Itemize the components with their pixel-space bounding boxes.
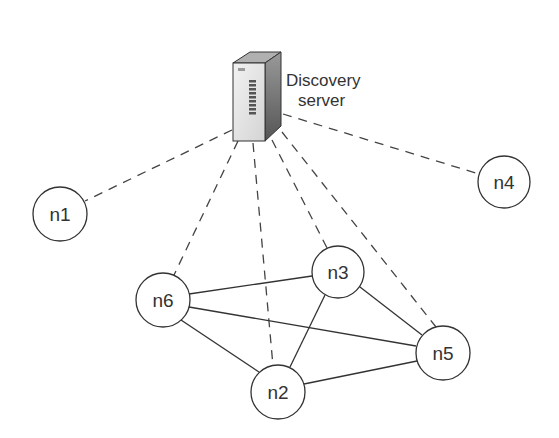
server-label-line2: server <box>298 91 346 110</box>
node-label-n5: n5 <box>432 343 453 364</box>
node-label-n1: n1 <box>49 204 70 225</box>
node-label-n6: n6 <box>152 290 173 311</box>
node-label-n3: n3 <box>327 262 348 283</box>
peer-link-n3-n5 <box>360 287 422 335</box>
discovery-link-n1 <box>85 130 232 201</box>
node-n6: n6 <box>136 273 190 327</box>
server-label-line1: Discovery <box>286 71 361 90</box>
peer-links <box>181 276 422 384</box>
discovery-link-n4 <box>283 114 479 174</box>
peer-link-n3-n2 <box>290 295 325 367</box>
node-n5: n5 <box>416 326 470 380</box>
node-label-n2: n2 <box>267 382 288 403</box>
server-icon <box>233 52 281 141</box>
discovery-link-n6 <box>174 141 238 275</box>
peer-link-n6-n3 <box>189 276 312 294</box>
discovery-links <box>85 114 479 366</box>
peer-link-n6-n2 <box>181 320 259 372</box>
node-n1: n1 <box>33 187 87 241</box>
node-label-n4: n4 <box>493 172 515 193</box>
node-n3: n3 <box>312 246 364 298</box>
peer-link-n2-n5 <box>304 361 417 384</box>
discovery-link-n5 <box>282 132 436 327</box>
discovery-diagram: Discovery server n1 n2 n3 n4 n5 n6 <box>0 0 559 438</box>
node-n4: n4 <box>478 156 530 208</box>
discovery-link-n2 <box>253 143 273 366</box>
node-n2: n2 <box>251 365 305 419</box>
discovery-link-n3 <box>272 140 327 248</box>
